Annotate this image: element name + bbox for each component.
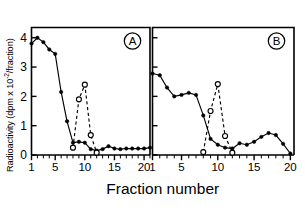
data-point-a-open-circle	[76, 97, 81, 102]
data-point-b-filled-circle	[194, 93, 197, 96]
data-point-b-filled-circle	[187, 91, 190, 94]
y-axis-label: Radioactivity (dpm x 10-2/fraction)	[3, 38, 15, 172]
data-point-a-filled-circle	[42, 40, 45, 43]
data-point-a-open-circle	[88, 133, 93, 138]
y-axis-label-exponent: -2	[3, 73, 10, 79]
x-axis-title: Fraction number	[106, 180, 219, 197]
x-tick-label-b-0: 1	[149, 161, 155, 173]
data-point-b-filled-circle	[289, 152, 292, 155]
panel-label-b: B	[273, 35, 281, 47]
data-point-b-filled-circle	[173, 95, 176, 98]
x-tick-label-b-1: 5	[178, 161, 184, 173]
data-point-a-filled-circle	[101, 147, 104, 150]
data-point-b-filled-circle	[223, 146, 226, 149]
data-point-a-filled-circle	[30, 42, 33, 45]
data-point-b-open-circle	[201, 150, 206, 155]
data-point-a-filled-circle	[77, 140, 80, 143]
data-point-b-filled-circle	[238, 142, 241, 145]
data-point-a-filled-circle	[59, 90, 62, 93]
data-point-a-filled-circle	[36, 36, 39, 39]
data-point-b-filled-circle	[281, 142, 284, 145]
data-point-a-filled-circle	[142, 147, 145, 150]
data-point-b-open-circle	[223, 133, 228, 138]
data-point-b-filled-circle	[158, 74, 161, 77]
x-tick-label-b-3: 15	[248, 161, 261, 173]
data-point-b-filled-circle	[202, 114, 205, 117]
panel-label-a: A	[129, 35, 137, 47]
data-point-b-open-circle	[215, 82, 220, 87]
data-point-b-filled-circle	[267, 131, 270, 134]
data-point-a-filled-circle	[54, 52, 57, 55]
data-point-a-filled-circle	[65, 120, 68, 123]
data-point-b-open-circle	[208, 109, 213, 114]
x-tick-label-b-2: 10	[211, 161, 224, 173]
data-point-b-open-circle	[230, 150, 235, 155]
x-tick-label-a-3: 15	[108, 161, 121, 173]
y-axis-label-main: Radioactivity (dpm x 10	[5, 79, 15, 172]
y-axis-label-container: Radioactivity (dpm x 10-2/fraction)	[0, 0, 22, 180]
data-point-b-filled-circle	[274, 133, 277, 136]
data-point-a-filled-circle	[83, 141, 86, 144]
data-layer	[30, 36, 292, 155]
data-point-b-filled-circle	[216, 143, 219, 146]
data-point-a-filled-circle	[119, 147, 122, 150]
data-point-b-filled-circle	[245, 143, 248, 146]
series-line-b-open-circle	[203, 84, 232, 153]
data-point-a-filled-circle	[148, 146, 151, 149]
chart-svg: 1510152001234A15101520BFraction number	[0, 0, 305, 211]
data-point-b-filled-circle	[260, 135, 263, 138]
data-point-a-filled-circle	[131, 147, 134, 150]
data-point-b-filled-circle	[180, 93, 183, 96]
data-point-a-filled-circle	[89, 147, 92, 150]
data-point-a-filled-circle	[113, 147, 116, 150]
x-tick-label-a-0: 1	[28, 161, 34, 173]
data-point-b-filled-circle	[165, 86, 168, 89]
data-point-a-filled-circle	[125, 147, 128, 150]
data-point-a-filled-circle	[107, 145, 110, 148]
figure-container: Radioactivity (dpm x 10-2/fraction) 1510…	[0, 0, 305, 211]
y-axis-label-tail: /fraction)	[5, 38, 15, 73]
text-label-layer: 1510152001234A15101520BFraction number	[20, 31, 296, 197]
data-point-a-filled-circle	[136, 147, 139, 150]
x-tick-label-a-2: 10	[78, 161, 91, 173]
data-point-a-open-circle	[82, 82, 87, 87]
x-tick-label-b-4: 20	[284, 161, 297, 173]
data-point-a-open-circle	[70, 145, 75, 150]
data-point-b-filled-circle	[151, 72, 154, 75]
data-point-b-filled-circle	[252, 140, 255, 143]
data-point-a-filled-circle	[48, 48, 51, 51]
x-tick-label-a-1: 5	[52, 161, 58, 173]
data-point-a-open-circle	[94, 150, 99, 155]
data-point-b-filled-circle	[209, 137, 212, 140]
